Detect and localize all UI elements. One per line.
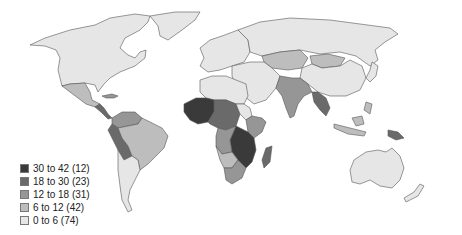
region-png [388,130,404,140]
legend-swatch [20,203,29,212]
legend-item: 0 to 6 (74) [20,214,90,227]
region-southern-cone [118,150,140,212]
legend-label: 12 to 18 (31) [33,188,90,201]
legend-item: 30 to 42 (12) [20,162,90,175]
legend-label: 18 to 30 (23) [33,175,90,188]
region-philippines [364,102,372,114]
legend-item: 6 to 12 (42) [20,201,90,214]
region-new-zealand [404,184,424,202]
legend-swatch [20,190,29,199]
region-southeast-asia [312,92,330,116]
region-australia [350,148,404,188]
region-greenland [150,12,200,40]
region-north-america [30,14,150,92]
legend: 30 to 42 (12) 18 to 30 (23) 12 to 18 (31… [20,162,90,227]
region-mexico [62,83,100,107]
legend-swatch [20,216,29,225]
region-central-america [95,104,112,119]
legend-swatch [20,177,29,186]
legend-label: 30 to 42 (12) [33,162,90,175]
region-indonesia [334,116,366,136]
legend-label: 6 to 12 (42) [33,201,84,214]
region-caribbean [102,94,118,98]
legend-item: 18 to 30 (23) [20,175,90,188]
region-madagascar [262,146,272,168]
legend-item: 12 to 18 (31) [20,188,90,201]
legend-swatch [20,164,29,173]
legend-label: 0 to 6 (74) [33,214,79,227]
region-japan [366,62,378,82]
